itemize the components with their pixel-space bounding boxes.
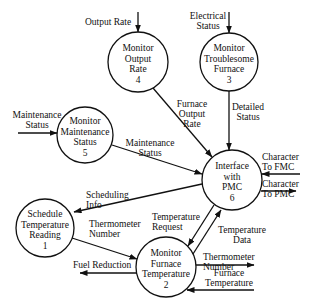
flow-label-character-to-fmc: Character To FMC: [262, 152, 299, 172]
flow-label-temperature-request: Temperature Request: [152, 212, 200, 232]
flow-label-electrical-status: Electrical Status: [188, 11, 228, 31]
flow-label-character-to-pmc: Character To PMC: [262, 179, 299, 199]
flow-label-furnace-output-rate: Furnace Output Rate: [170, 99, 214, 129]
flow-label-furnace-temperature: Furnace Temperature: [201, 268, 257, 288]
process-node-2[interactable]: Monitor Furnace Temperature 2: [133, 248, 199, 290]
flow-label-scheduling-info: Scheduling Info: [86, 190, 129, 210]
flow-label-detailed-status: Detailed Status: [230, 102, 266, 122]
process-node-6[interactable]: Interface with PMC 6: [202, 161, 262, 203]
flow-label-maintenance-status-in: Maintenance Status: [10, 110, 64, 130]
flow-label-output-rate: Output Rate: [85, 17, 131, 27]
process-node-3[interactable]: Monitor Troublesome Furnace 3: [196, 43, 262, 85]
process-node-4[interactable]: Monitor Output Rate 4: [108, 43, 168, 85]
flow-label-temperature-data: Temperature Data: [214, 225, 270, 245]
flow-label-fuel-reduction: Fuel Reduction: [73, 260, 131, 270]
process-node-1[interactable]: Schedule Temperature Reading 1: [12, 209, 78, 251]
flow-label-thermometer-number-1: Thermometer Number: [89, 219, 141, 239]
flow-label-maintenance-status: Maintenance Status: [124, 138, 176, 158]
